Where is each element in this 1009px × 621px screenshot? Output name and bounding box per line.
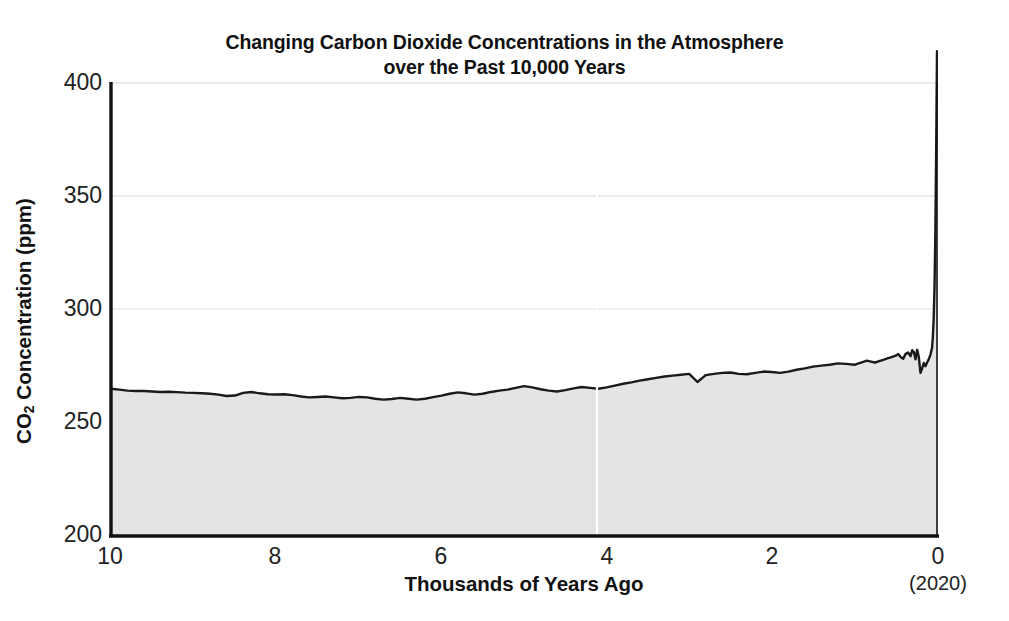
co2-area-fill <box>111 51 937 538</box>
plot-area <box>0 0 1009 621</box>
co2-chart-figure: Changing Carbon Dioxide Concentrations i… <box>0 0 1009 621</box>
series-group <box>111 51 937 538</box>
co2-line <box>111 51 937 399</box>
